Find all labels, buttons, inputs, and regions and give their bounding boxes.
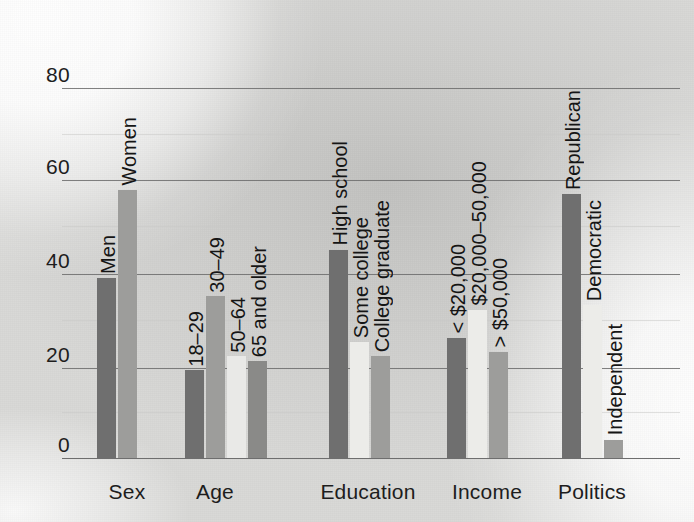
bar-value-label: College graduate — [372, 200, 392, 352]
bar-value-label: > $50,000 — [490, 258, 510, 348]
y-axis-tick-20: 20 — [26, 344, 70, 365]
plot-area: 020406080MenWomenSex18–2930–4950–6465 an… — [0, 0, 694, 522]
gridline-faint — [62, 134, 680, 135]
bar-value-label: Women — [119, 117, 139, 186]
bar — [206, 296, 225, 458]
bar — [248, 361, 267, 458]
y-axis-tick-40: 40 — [26, 250, 70, 271]
bar — [489, 352, 508, 458]
bar — [583, 305, 602, 458]
x-axis-group-label: Politics — [502, 480, 682, 504]
bar — [227, 356, 246, 458]
bar-value-label: Independent — [605, 324, 625, 435]
bar-value-label: 50–64 — [228, 297, 248, 353]
gridline-80 — [62, 88, 680, 89]
bar-value-label: Republican — [563, 90, 583, 190]
y-axis-tick-0: 0 — [26, 434, 70, 455]
bar — [562, 194, 581, 458]
bar — [604, 440, 623, 459]
bar-value-label: Democratic — [584, 200, 604, 301]
bar-value-label: High school — [330, 141, 350, 246]
survey-bar-chart-figure: 020406080MenWomenSex18–2930–4950–6465 an… — [0, 0, 694, 522]
bar — [350, 342, 369, 458]
bar — [329, 250, 348, 458]
bar-value-label: 30–49 — [207, 237, 227, 293]
bar — [185, 370, 204, 458]
y-axis-tick-80: 80 — [26, 64, 70, 85]
bar — [118, 190, 137, 458]
gridline-60 — [62, 180, 680, 181]
bar-value-label: Some college — [351, 217, 371, 338]
bar-value-label: 65 and older — [249, 246, 269, 357]
bar — [447, 338, 466, 458]
bar — [468, 310, 487, 458]
x-axis-baseline — [62, 458, 680, 459]
bar-value-label: Men — [98, 235, 118, 274]
bar-value-label: 18–29 — [186, 311, 206, 367]
bar — [371, 356, 390, 458]
bar-value-label: $20,000–50,000 — [469, 161, 489, 306]
bar-value-label: < $20,000 — [448, 244, 468, 334]
bar — [97, 278, 116, 458]
y-axis-tick-60: 60 — [26, 156, 70, 177]
